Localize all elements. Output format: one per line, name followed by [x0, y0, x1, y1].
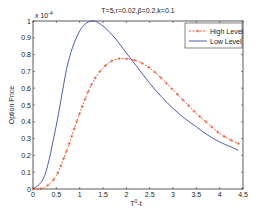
- svg-text:0.6: 0.6: [21, 85, 31, 92]
- svg-text:0.9: 0.9: [21, 34, 31, 41]
- svg-text:0.5: 0.5: [51, 191, 61, 198]
- chart-title: T=5,r=0.02,β=0.2,k=0.1: [101, 7, 174, 15]
- x-axis-label: T0-t: [130, 198, 141, 207]
- svg-text:High Level: High Level: [210, 28, 244, 36]
- svg-text:0: 0: [27, 186, 31, 193]
- svg-text:0.8: 0.8: [21, 51, 31, 58]
- svg-text:3.5: 3.5: [191, 191, 201, 198]
- svg-text:0.5: 0.5: [21, 102, 31, 109]
- svg-text:1: 1: [27, 18, 31, 25]
- svg-text:1: 1: [78, 191, 82, 198]
- svg-text:4: 4: [218, 191, 222, 198]
- svg-text:0.7: 0.7: [21, 68, 31, 75]
- y-multiplier: x 10-4: [35, 10, 53, 19]
- svg-text:4.5: 4.5: [238, 191, 248, 198]
- y-axis-label: Option Price: [8, 86, 16, 125]
- svg-text:0: 0: [31, 191, 35, 198]
- legend: High LevelLow Level: [185, 23, 244, 48]
- svg-text:2.5: 2.5: [145, 191, 155, 198]
- svg-text:0.2: 0.2: [21, 152, 31, 159]
- svg-text:0.4: 0.4: [21, 118, 31, 125]
- svg-text:0.1: 0.1: [21, 169, 31, 176]
- svg-text:3: 3: [171, 191, 175, 198]
- svg-text:1.5: 1.5: [98, 191, 108, 198]
- svg-text:0.3: 0.3: [21, 135, 31, 142]
- svg-text:Low Level: Low Level: [210, 38, 242, 45]
- svg-text:2: 2: [124, 191, 128, 198]
- chart: T=5,r=0.02,β=0.2,k=0.1 x 10-4 00.511.522…: [0, 0, 261, 220]
